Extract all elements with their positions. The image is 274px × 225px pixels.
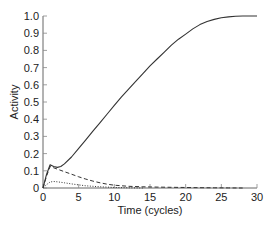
y-tick-label: 0.8 bbox=[24, 44, 39, 56]
x-tick-label: 20 bbox=[180, 191, 192, 203]
x-tick-label: 5 bbox=[76, 191, 82, 203]
line-chart: 00.10.20.30.40.50.60.70.80.91.0051015202… bbox=[0, 0, 274, 225]
series-group bbox=[43, 16, 257, 188]
axes: 00.10.20.30.40.50.60.70.80.91.0051015202… bbox=[24, 10, 263, 203]
y-tick-label: 0 bbox=[33, 182, 39, 194]
x-tick-label: 10 bbox=[108, 191, 120, 203]
y-tick-label: 0.7 bbox=[24, 62, 39, 74]
y-tick-label: 0.5 bbox=[24, 96, 39, 108]
y-tick-label: 0.4 bbox=[24, 113, 39, 125]
y-tick-label: 0.2 bbox=[24, 148, 39, 160]
series-dotted-line bbox=[43, 182, 143, 189]
x-tick-label: 25 bbox=[215, 191, 227, 203]
series-solid-line bbox=[43, 16, 257, 188]
x-tick-label: 15 bbox=[144, 191, 156, 203]
y-tick-label: 0.3 bbox=[24, 130, 39, 142]
y-tick-label: 0.9 bbox=[24, 27, 39, 39]
y-axis-label: Activity bbox=[8, 84, 20, 119]
y-tick-label: 0.1 bbox=[24, 165, 39, 177]
x-tick-label: 30 bbox=[251, 191, 263, 203]
x-tick-label: 0 bbox=[40, 191, 46, 203]
series-dashed-line bbox=[43, 167, 243, 189]
x-axis-label: Time (cycles) bbox=[118, 204, 183, 216]
y-tick-label: 1.0 bbox=[24, 10, 39, 22]
y-tick-label: 0.6 bbox=[24, 79, 39, 91]
